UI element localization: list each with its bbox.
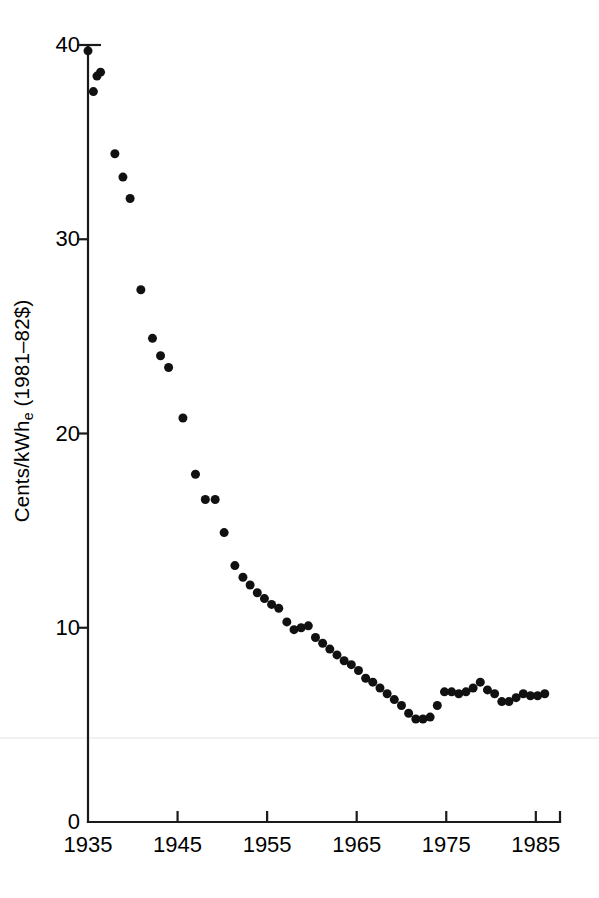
data-point xyxy=(110,149,119,158)
data-point xyxy=(383,689,392,698)
data-point xyxy=(347,660,356,669)
data-point xyxy=(253,588,262,597)
data-point xyxy=(390,695,399,704)
data-point xyxy=(211,495,220,504)
chart-figure: Cents/kWhe (1981–82$) 010203040 19351945… xyxy=(0,0,599,898)
data-point xyxy=(126,194,135,203)
data-point xyxy=(84,46,93,55)
data-point xyxy=(426,713,435,722)
data-point xyxy=(404,709,413,718)
data-point xyxy=(118,173,127,182)
data-point xyxy=(260,594,269,603)
data-point xyxy=(304,621,313,630)
data-point xyxy=(469,683,478,692)
data-point xyxy=(191,470,200,479)
data-point xyxy=(311,633,320,642)
data-point xyxy=(92,72,101,81)
data-point xyxy=(368,678,377,687)
data-point xyxy=(325,645,334,654)
data-point xyxy=(274,604,283,613)
data-point xyxy=(178,413,187,422)
data-point xyxy=(201,495,210,504)
data-point xyxy=(282,617,291,626)
data-points xyxy=(84,46,550,723)
data-point xyxy=(540,689,549,698)
data-point xyxy=(148,334,157,343)
data-point xyxy=(354,666,363,675)
data-point xyxy=(490,689,499,698)
data-point xyxy=(433,701,442,710)
axes xyxy=(77,45,560,822)
data-point xyxy=(164,363,173,372)
data-point xyxy=(332,650,341,659)
data-point xyxy=(156,351,165,360)
data-point xyxy=(136,285,145,294)
data-point xyxy=(220,528,229,537)
plot-area xyxy=(0,0,599,898)
data-point xyxy=(230,561,239,570)
data-point xyxy=(246,581,255,590)
data-point xyxy=(476,678,485,687)
data-point xyxy=(238,573,247,582)
data-point xyxy=(318,639,327,648)
data-point xyxy=(89,87,98,96)
data-point xyxy=(397,701,406,710)
data-point xyxy=(375,683,384,692)
